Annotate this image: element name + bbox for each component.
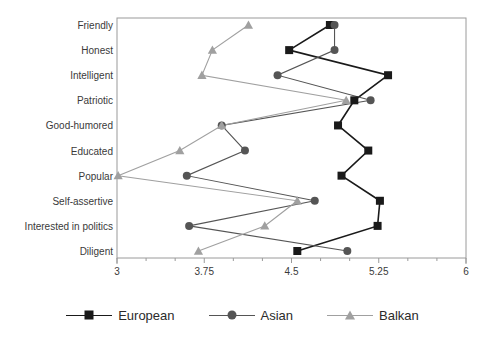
data-point-balkan bbox=[175, 146, 184, 154]
data-point-asian bbox=[311, 197, 319, 205]
data-point-european bbox=[293, 247, 301, 255]
data-point-european bbox=[384, 71, 392, 79]
legend-marker-square-icon bbox=[85, 311, 94, 320]
legend-item-balkan[interactable]: Balkan bbox=[327, 307, 419, 323]
series-markers bbox=[114, 20, 392, 255]
data-point-balkan bbox=[194, 246, 203, 254]
data-point-balkan bbox=[114, 171, 123, 179]
data-point-european bbox=[350, 96, 358, 104]
data-point-asian bbox=[183, 172, 191, 180]
data-point-balkan bbox=[197, 71, 206, 79]
legend-label: Balkan bbox=[379, 308, 419, 323]
data-point-european bbox=[334, 121, 342, 129]
data-point-asian bbox=[343, 247, 351, 255]
legend-label: European bbox=[118, 308, 174, 323]
data-point-european bbox=[376, 197, 384, 205]
data-point-european bbox=[285, 46, 293, 54]
series-lines bbox=[118, 25, 388, 251]
data-point-balkan bbox=[208, 46, 217, 54]
x-axis-ticks bbox=[117, 258, 466, 264]
legend-swatch bbox=[66, 307, 112, 323]
data-point-european bbox=[374, 222, 382, 230]
data-point-asian bbox=[331, 21, 339, 29]
series-line-asian bbox=[187, 25, 371, 251]
data-point-asian bbox=[185, 222, 193, 230]
chart-legend: EuropeanAsianBalkan bbox=[0, 303, 485, 327]
chart-container: FriendlyHonestIntelligentPatrioticGood-h… bbox=[0, 0, 485, 340]
data-point-european bbox=[364, 147, 372, 155]
legend-item-european[interactable]: European bbox=[66, 307, 174, 323]
data-point-balkan bbox=[260, 221, 269, 229]
plot-area bbox=[0, 0, 485, 340]
data-point-asian bbox=[241, 147, 249, 155]
data-point-european bbox=[338, 172, 346, 180]
data-point-asian bbox=[331, 46, 339, 54]
legend-item-asian[interactable]: Asian bbox=[209, 307, 294, 323]
legend-swatch bbox=[209, 307, 255, 323]
legend-marker-triangle-icon bbox=[345, 311, 355, 320]
data-point-asian bbox=[367, 96, 375, 104]
data-point-asian bbox=[274, 71, 282, 79]
legend-label: Asian bbox=[261, 308, 294, 323]
series-line-european bbox=[289, 25, 388, 251]
legend-swatch bbox=[327, 307, 373, 323]
data-point-balkan bbox=[244, 20, 253, 28]
legend-marker-circle-icon bbox=[227, 311, 236, 320]
